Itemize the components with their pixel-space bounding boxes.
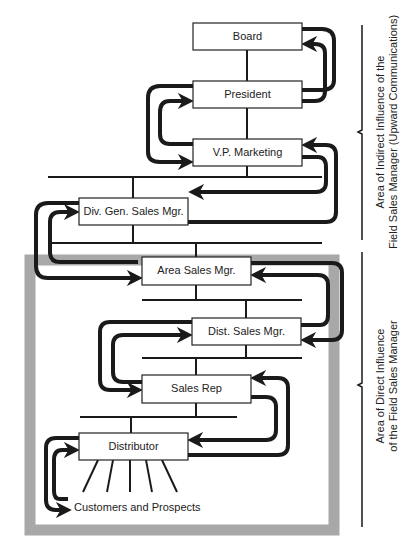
node-label: Board: [233, 30, 262, 42]
node-label: Distributor: [108, 440, 158, 452]
node-dist-sales-mgr: Dist. Sales Mgr.: [192, 318, 301, 345]
node-label: Sales Rep: [171, 382, 222, 394]
node-label: Area Sales Mgr.: [157, 264, 235, 276]
node-vp-marketing: V.P. Marketing: [193, 139, 302, 166]
node-label: V.P. Marketing: [213, 146, 283, 158]
node-president: President: [193, 81, 302, 108]
node-board: Board: [193, 23, 302, 50]
node-label: Div. Gen. Sales Mgr.: [83, 205, 183, 217]
indirect-label-line1: Area of Indirect Influence of the: [374, 56, 386, 209]
direct-label-line2: of the Field Sales Manager: [387, 320, 399, 452]
indirect-label-line2: Field Sales Manager (Upward Communicatio…: [387, 15, 399, 249]
direct-influence-bracket: Area of Direct Influence of the Field Sa…: [358, 252, 399, 527]
distributor-rays: [83, 460, 177, 492]
node-div-gen-sales-mgr: Div. Gen. Sales Mgr.: [79, 198, 188, 225]
customers-label: Customers and Prospects: [74, 501, 201, 513]
node-sales-rep: Sales Rep: [142, 375, 251, 403]
node-label: Dist. Sales Mgr.: [208, 325, 285, 337]
node-distributor: Distributor: [79, 433, 188, 460]
node-label: President: [224, 88, 270, 100]
direct-label-line1: Area of Direct Influence: [374, 329, 386, 444]
node-area-sales-mgr: Area Sales Mgr.: [142, 257, 251, 285]
indirect-influence-bracket: Area of Indirect Influence of the Field …: [358, 15, 399, 249]
org-influence-diagram: Board President V.P. Marketing Div. Gen.…: [0, 0, 419, 543]
